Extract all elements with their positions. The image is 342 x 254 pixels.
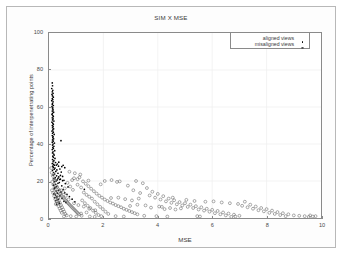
x-tick-mark bbox=[267, 216, 268, 219]
chart-title: SIM X MSE bbox=[0, 14, 342, 21]
x-tick-mark bbox=[158, 216, 159, 219]
x-tick-mark bbox=[322, 216, 323, 219]
y-tick-mark bbox=[48, 69, 51, 70]
y-tick-mark bbox=[48, 182, 51, 183]
y-tick-label-100: 100 bbox=[21, 29, 43, 35]
x-axis-label: MSE bbox=[48, 236, 322, 243]
plot-area bbox=[48, 32, 322, 219]
legend-marker-circle-icon bbox=[299, 35, 306, 53]
figure-container: SIM X MSE 0204060801000246810 MSE Percen… bbox=[0, 0, 342, 254]
x-tick-mark bbox=[212, 216, 213, 219]
legend-label-aligned: aligned views bbox=[263, 35, 294, 41]
x-tick-label-10: 10 bbox=[312, 222, 332, 228]
scatter-points bbox=[49, 33, 321, 218]
y-tick-mark bbox=[48, 219, 51, 220]
x-tick-label-2: 2 bbox=[93, 222, 113, 228]
y-axis-label: Percentage of interpenetrating points bbox=[28, 40, 34, 200]
y-tick-mark bbox=[48, 32, 51, 33]
y-tick-mark bbox=[48, 144, 51, 145]
legend-label-misaligned: misaligned views bbox=[255, 41, 294, 47]
x-tick-label-8: 8 bbox=[257, 222, 277, 228]
y-tick-mark bbox=[48, 107, 51, 108]
legend-box: aligned views misaligned views bbox=[230, 32, 310, 49]
x-tick-label-6: 6 bbox=[202, 222, 222, 228]
series-misaligned-views bbox=[50, 167, 317, 218]
legend-entry-misaligned: misaligned views bbox=[234, 41, 306, 48]
x-tick-label-0: 0 bbox=[38, 222, 58, 228]
x-tick-mark bbox=[103, 216, 104, 219]
x-tick-mark bbox=[48, 216, 49, 219]
x-tick-label-4: 4 bbox=[148, 222, 168, 228]
y-tick-label-0: 0 bbox=[21, 216, 43, 222]
